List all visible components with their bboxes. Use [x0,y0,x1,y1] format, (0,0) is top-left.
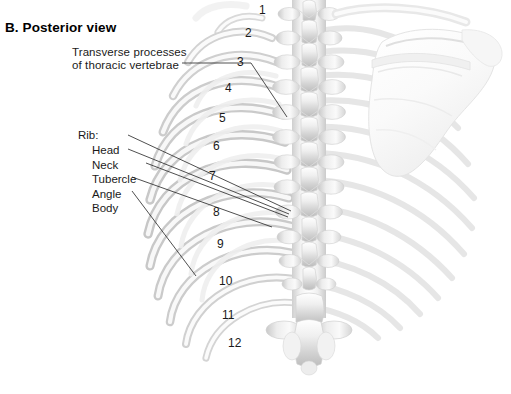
rib-number-5: 5 [219,112,226,124]
clavicle [336,8,466,22]
label-rib-body: Body [92,201,136,216]
rib-number-10: 10 [219,275,232,287]
label-rib-neck: Neck [92,158,136,173]
label-transverse-processes-line2: of thoracic vertebrae [72,59,187,72]
page-title: B. Posterior view [5,20,116,35]
rib-number-11: 11 [222,309,234,321]
rib-number-4: 4 [225,82,232,94]
label-rib-head: Head [92,143,136,158]
label-transverse-processes: Transverse processes of thoracic vertebr… [72,46,187,72]
rib-number-3: 3 [237,56,244,68]
rib-number-12: 12 [228,337,241,349]
label-group-rib: Rib: Head Neck Tubercle Angle Body [78,125,136,216]
figure-panel: B. Posterior view Transverse processes o… [0,0,511,394]
rib-number-2: 2 [245,27,252,39]
label-rib-tubercle: Tubercle [92,172,136,187]
rib-number-7: 7 [209,170,216,182]
rib-number-6: 6 [213,140,220,152]
rib-number-9: 9 [217,238,224,250]
scapula [369,29,502,176]
label-transverse-processes-line1: Transverse processes [72,46,187,59]
rib-number-8: 8 [213,206,220,218]
label-rib-heading: Rib: [78,129,98,141]
thoracic-vertebral-column [273,0,346,318]
label-rib-angle: Angle [92,187,136,202]
rib-number-1: 1 [259,4,266,16]
